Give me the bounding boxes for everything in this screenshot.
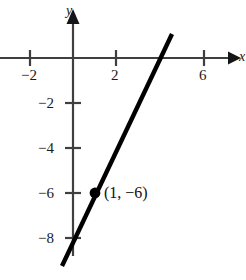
coordinate-plane xyxy=(0,0,246,280)
y-axis-label: y xyxy=(66,4,72,18)
y-tick-label-neg2: −2 xyxy=(38,96,54,111)
point-annotation-label: (1, −6) xyxy=(104,185,148,201)
x-axis-label: x xyxy=(239,50,245,64)
y-tick-label-neg6: −6 xyxy=(38,186,54,201)
y-tick-label-neg8: −8 xyxy=(38,231,54,246)
x-tick-label-neg2: −2 xyxy=(21,68,37,83)
y-tick-label-neg4: −4 xyxy=(38,141,54,156)
x-tick-label-6: 6 xyxy=(199,68,207,83)
x-tick-label-2: 2 xyxy=(111,68,119,83)
plotted-point-marker xyxy=(90,188,101,199)
graph-figure: y x −2 2 6 −2 −4 −6 −8 (1, −6) xyxy=(0,0,246,280)
